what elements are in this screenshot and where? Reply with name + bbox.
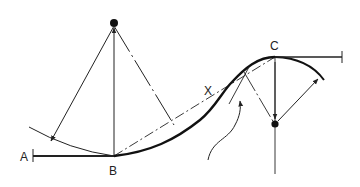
chord-b-c [114,57,275,156]
radius-dashed-right [244,72,274,123]
large-radius-arc [29,127,114,156]
direction-arrow [208,101,240,160]
label-x: X [204,84,212,98]
radius-to-arc [51,26,114,141]
radius-dashed [114,26,174,125]
upper-centre-point [110,19,118,27]
tangent-line-c [275,51,342,63]
label-c: C [270,39,279,53]
lower-centre-point [271,120,278,127]
transition-curve-diagram: A B X C [0,0,360,187]
radius-to-right-arc [278,79,318,121]
label-b: B [109,164,117,178]
tangent-line-a-b [33,149,114,162]
tangent-at-x [229,67,249,104]
right-circular-arc [275,57,324,80]
label-a: A [20,150,28,164]
